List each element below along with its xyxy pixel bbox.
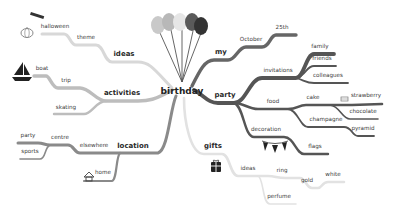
node-my[interactable]: my [215,49,227,56]
node-skating[interactable]: skating [56,105,76,111]
node-gifts[interactable]: gifts [204,143,222,150]
node-invitations[interactable]: invitations [263,68,292,74]
node-party-loc[interactable]: party [21,133,36,139]
node-chocolate[interactable]: chocolate [349,109,376,115]
gift-box-icon [211,160,221,172]
node-perfume[interactable]: perfume [267,194,291,200]
node-october[interactable]: October [240,37,262,43]
pumpkin-icon [21,27,33,38]
node-party[interactable]: party [214,92,235,99]
node-sports[interactable]: sports [21,149,38,155]
node-strawberry[interactable]: strawberry [351,93,381,99]
bunting-flags-icon [262,141,288,153]
node-cake[interactable]: cake [307,95,320,101]
node-centre[interactable]: centre [51,135,69,141]
node-family[interactable]: family [311,44,328,50]
node-food[interactable]: food [267,99,279,105]
node-colleagues[interactable]: colleagues [313,73,343,79]
node-location[interactable]: location [117,143,149,150]
node-trip[interactable]: trip [61,78,71,84]
node-pyramid[interactable]: pyramid [351,126,374,132]
node-elsewhere[interactable]: elsewhere [80,143,109,149]
node-ring[interactable]: ring [277,168,288,174]
node-white[interactable]: white [325,172,340,178]
node-home[interactable]: home [95,170,111,176]
node-activities[interactable]: activities [104,90,140,97]
root-node-birthday[interactable]: birthday [161,87,204,96]
node-flags[interactable]: flags [308,144,321,150]
node-friends[interactable]: friends [312,56,331,62]
node-25th[interactable]: 25th [276,25,289,31]
node-theme[interactable]: theme [77,35,95,41]
cake-icon [341,97,348,101]
node-boat[interactable]: boat [36,66,49,72]
bats-icon [30,12,44,19]
node-gold[interactable]: gold [301,178,313,184]
node-gifts-ideas[interactable]: ideas [241,166,256,172]
node-decoration[interactable]: decoration [251,127,281,133]
house-icon [84,172,94,181]
node-ideas[interactable]: ideas [113,51,134,58]
node-halloween[interactable]: halloween [41,24,70,30]
mind-map-canvas: ideasthemehalloweenactivitiestripboatska… [0,0,393,215]
sailboat-icon [12,62,32,81]
node-champagne[interactable]: champagne [309,117,342,123]
